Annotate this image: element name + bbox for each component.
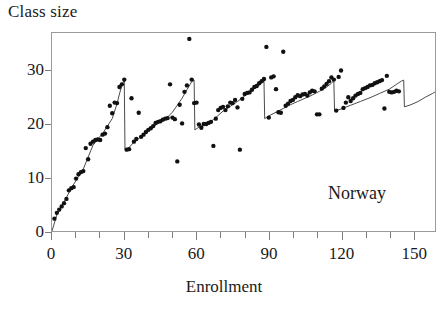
data-point bbox=[134, 137, 138, 141]
data-point bbox=[64, 197, 68, 201]
data-point bbox=[137, 111, 141, 115]
data-point bbox=[385, 74, 389, 78]
data-point bbox=[180, 121, 184, 125]
data-point bbox=[175, 159, 179, 163]
data-point bbox=[86, 157, 90, 161]
x-tick-mark-minor bbox=[99, 232, 100, 238]
data-point bbox=[199, 126, 203, 130]
data-point bbox=[108, 104, 112, 108]
data-point bbox=[327, 79, 331, 83]
maimonides-trend-line bbox=[52, 80, 435, 231]
data-point bbox=[344, 100, 348, 104]
data-point bbox=[358, 91, 362, 95]
data-point bbox=[223, 108, 227, 112]
y-axis-labels: 0102030 bbox=[4, 0, 44, 309]
data-point bbox=[312, 89, 316, 93]
data-point bbox=[382, 106, 386, 110]
x-tick-mark-minor bbox=[317, 232, 318, 238]
data-point bbox=[317, 112, 321, 116]
country-annotation: Norway bbox=[328, 183, 386, 204]
data-point bbox=[168, 82, 172, 86]
data-point bbox=[281, 50, 285, 54]
data-point bbox=[211, 144, 215, 148]
x-tick-label: 120 bbox=[329, 244, 355, 263]
data-point bbox=[233, 98, 237, 102]
data-point bbox=[71, 185, 75, 189]
data-point bbox=[339, 68, 343, 72]
chart-figure: Class size 0102030 0306090120150 Norway … bbox=[0, 0, 448, 309]
data-point bbox=[341, 106, 345, 110]
data-point bbox=[165, 116, 169, 120]
x-tick-mark-minor bbox=[75, 232, 76, 238]
data-point bbox=[271, 74, 275, 78]
x-tick-mark-minor bbox=[366, 232, 367, 238]
x-tick-label: 60 bbox=[188, 244, 205, 263]
data-point bbox=[380, 78, 384, 82]
data-point bbox=[120, 82, 124, 86]
data-point bbox=[52, 217, 56, 221]
data-point bbox=[115, 101, 119, 105]
data-point bbox=[226, 104, 230, 108]
data-point bbox=[332, 77, 336, 81]
data-point bbox=[110, 111, 114, 115]
data-point bbox=[74, 176, 78, 180]
x-tick-mark-minor bbox=[293, 232, 294, 238]
data-point bbox=[397, 89, 401, 93]
x-tick-mark-major bbox=[269, 232, 270, 240]
data-point bbox=[209, 120, 213, 124]
x-tick-mark-minor bbox=[148, 232, 149, 238]
data-point bbox=[98, 138, 102, 142]
y-tick-label: 0 bbox=[10, 223, 44, 240]
x-axis-title: Enrollment bbox=[0, 277, 448, 297]
x-tick-mark-minor bbox=[245, 232, 246, 238]
data-point bbox=[84, 146, 88, 150]
x-tick-label: 90 bbox=[260, 244, 277, 263]
data-point bbox=[62, 201, 66, 205]
data-point bbox=[185, 83, 189, 87]
data-point bbox=[235, 105, 239, 109]
data-point bbox=[267, 115, 271, 119]
data-point bbox=[105, 125, 109, 129]
data-point bbox=[182, 90, 186, 94]
y-tick-label: 10 bbox=[10, 169, 44, 186]
data-point bbox=[187, 37, 191, 41]
x-tick-mark-major bbox=[124, 232, 125, 240]
data-point bbox=[190, 77, 194, 81]
x-tick-mark-major bbox=[342, 232, 343, 240]
data-point bbox=[177, 103, 181, 107]
data-point bbox=[122, 77, 126, 81]
data-point bbox=[173, 117, 177, 121]
x-tick-mark-major bbox=[196, 232, 197, 240]
data-point bbox=[334, 108, 338, 112]
data-point bbox=[240, 97, 244, 101]
data-point bbox=[274, 87, 278, 91]
data-point bbox=[336, 75, 340, 79]
x-tick-mark-major bbox=[51, 232, 52, 240]
data-point bbox=[194, 100, 198, 104]
data-point bbox=[238, 147, 242, 151]
data-point bbox=[81, 169, 85, 173]
data-point bbox=[264, 45, 268, 49]
x-tick-mark-minor bbox=[390, 232, 391, 238]
data-point bbox=[346, 95, 350, 99]
data-point bbox=[127, 147, 131, 151]
x-tick-mark-minor bbox=[172, 232, 173, 238]
trend-line-path bbox=[52, 80, 435, 231]
y-tick-label: 30 bbox=[10, 61, 44, 78]
x-tick-label: 0 bbox=[47, 244, 56, 263]
data-point bbox=[129, 96, 133, 100]
data-point bbox=[103, 131, 107, 135]
data-point bbox=[262, 77, 266, 81]
x-tick-label: 30 bbox=[115, 244, 132, 263]
data-point bbox=[214, 116, 218, 120]
x-tick-label: 150 bbox=[401, 244, 427, 263]
y-tick-label: 20 bbox=[10, 115, 44, 132]
x-tick-mark-major bbox=[414, 232, 415, 240]
data-point bbox=[279, 111, 283, 115]
x-tick-mark-minor bbox=[220, 232, 221, 238]
